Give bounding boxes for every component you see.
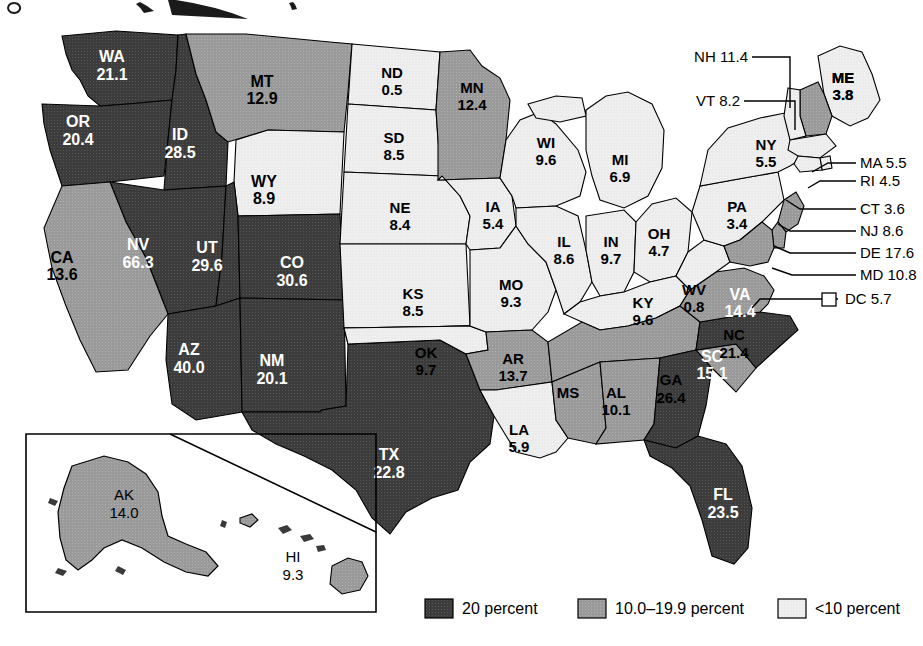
legend-swatch-mid: [578, 599, 606, 618]
callout-DE: DE 17.6: [860, 244, 914, 261]
state-AZ[interactable]: [166, 298, 242, 420]
legend-label-dark: 20 percent: [462, 600, 538, 617]
callout-MD: MD 10.8: [860, 266, 917, 283]
choropleth-map: WA21.1 OR20.4 ID28.5 MT12.9 WY8.9 NV66.3…: [0, 0, 923, 646]
hi-islands: [220, 520, 326, 552]
inset-value-AK: 14.0: [109, 504, 138, 521]
legend-swatch-dark: [425, 599, 453, 618]
state-ND[interactable]: [348, 44, 440, 110]
hi-big-island[interactable]: [330, 558, 368, 594]
state-FL[interactable]: [644, 436, 752, 564]
inset-value-HI: 9.3: [283, 566, 304, 583]
state-WI[interactable]: [500, 112, 586, 208]
top-cropped-text-fragment: [7, 0, 297, 19]
state-IN[interactable]: [586, 210, 636, 296]
callout-RI: RI 4.5: [860, 172, 900, 189]
state-SD[interactable]: [344, 104, 442, 176]
callout-VT: VT 8.2: [696, 92, 740, 109]
state-WA[interactable]: [62, 31, 178, 106]
state-OR[interactable]: [42, 100, 172, 186]
legend-label-mid: 10.0–19.9 percent: [615, 600, 745, 617]
callout-NH: NH 11.4: [694, 48, 748, 65]
legend: 20 percent 10.0–19.9 percent <10 percent: [425, 599, 901, 618]
callout-DC: DC 5.7: [845, 290, 892, 307]
state-HI[interactable]: [240, 514, 258, 527]
state-CO[interactable]: [238, 214, 344, 300]
inset-label-HI: HI: [286, 548, 301, 565]
inset-label-AK: AK: [114, 486, 134, 503]
callout-CT: CT 3.6: [860, 200, 905, 217]
us-map-svg: WA21.1 OR20.4 ID28.5 MT12.9 WY8.9 NV66.3…: [0, 0, 923, 646]
leader-MD: [772, 268, 856, 275]
legend-swatch-light: [778, 599, 806, 618]
state-WY[interactable]: [234, 130, 344, 216]
leader-RI: [808, 181, 856, 188]
callout-NJ: NJ 8.6: [860, 222, 903, 239]
callout-MA: MA 5.5: [860, 154, 907, 171]
state-MN[interactable]: [436, 50, 510, 180]
state-NM[interactable]: [240, 298, 346, 412]
states-group: [42, 31, 880, 564]
dc-swatch: [822, 293, 836, 306]
state-KS[interactable]: [340, 244, 470, 328]
leader-DE: [774, 246, 856, 253]
legend-label-light: <10 percent: [815, 600, 901, 617]
state-CT[interactable]: [794, 156, 822, 172]
